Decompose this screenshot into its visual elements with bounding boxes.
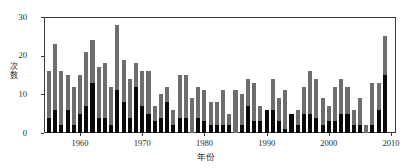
bar-segment-lower bbox=[146, 114, 150, 133]
y-axis: 0102030 bbox=[0, 0, 44, 168]
bar-segment-upper bbox=[233, 90, 237, 133]
bar bbox=[97, 67, 101, 133]
bar-segment-lower bbox=[134, 87, 138, 133]
bar-segment-upper bbox=[364, 125, 368, 133]
bar-segment-lower bbox=[252, 121, 256, 133]
y-tick-mark bbox=[41, 133, 44, 134]
bar-segment-lower bbox=[302, 114, 306, 133]
bar bbox=[196, 87, 200, 133]
bar bbox=[271, 79, 275, 133]
x-tick-mark bbox=[204, 133, 205, 136]
x-axis-title: 年份 bbox=[0, 150, 411, 162]
bars-layer bbox=[45, 18, 395, 133]
x-tick-mark bbox=[391, 133, 392, 136]
x-tick-label: 1960 bbox=[60, 138, 100, 148]
bar-segment-lower bbox=[171, 125, 175, 133]
bar-segment-upper bbox=[165, 87, 169, 102]
bar bbox=[352, 110, 356, 133]
x-tick-mark bbox=[142, 133, 143, 136]
bar-segment-upper bbox=[66, 75, 70, 110]
bar-segment-lower bbox=[246, 106, 250, 133]
bar-segment-lower bbox=[345, 114, 349, 133]
bar bbox=[72, 87, 76, 133]
bar-segment-lower bbox=[159, 118, 163, 133]
y-tick-mark bbox=[41, 56, 44, 57]
bar-segment-upper bbox=[84, 52, 88, 106]
bar-segment-lower bbox=[103, 118, 107, 133]
bar-segment-lower bbox=[289, 114, 293, 133]
bar bbox=[314, 79, 318, 133]
bar-segment-lower bbox=[153, 121, 157, 133]
bar-segment-upper bbox=[146, 71, 150, 114]
bar bbox=[202, 90, 206, 133]
bar-segment-upper bbox=[202, 90, 206, 121]
bar-segment-lower bbox=[321, 125, 325, 133]
x-tick-mark bbox=[329, 133, 330, 136]
bar-segment-upper bbox=[240, 94, 244, 125]
bar-segment-upper bbox=[339, 79, 343, 114]
bar-segment-lower bbox=[184, 118, 188, 133]
bar-segment-lower bbox=[258, 121, 262, 133]
bar-segment-lower bbox=[333, 121, 337, 133]
bar-segment-lower bbox=[178, 118, 182, 133]
bar-segment-lower bbox=[59, 125, 63, 133]
bar-segment-lower bbox=[140, 106, 144, 133]
bar-segment-lower bbox=[296, 125, 300, 133]
bar-segment-lower bbox=[265, 110, 269, 133]
bar-segment-lower bbox=[47, 118, 51, 133]
bar bbox=[122, 60, 126, 133]
bar-segment-lower bbox=[370, 125, 374, 133]
bar-segment-upper bbox=[159, 94, 163, 117]
bar-segment-upper bbox=[227, 114, 231, 126]
bar-segment-upper bbox=[103, 63, 107, 117]
bar bbox=[321, 98, 325, 133]
bar-segment-upper bbox=[171, 110, 175, 125]
bar-segment-upper bbox=[271, 79, 275, 110]
bar-segment-upper bbox=[215, 102, 219, 125]
bar-segment-lower bbox=[327, 121, 331, 133]
bar-segment-upper bbox=[296, 110, 300, 125]
bar-segment-lower bbox=[215, 125, 219, 133]
bar bbox=[296, 110, 300, 133]
bar bbox=[240, 94, 244, 133]
bar bbox=[134, 63, 138, 133]
bar-segment-upper bbox=[115, 25, 119, 91]
bar-segment-upper bbox=[190, 98, 194, 133]
bar bbox=[327, 106, 331, 133]
bar-segment-upper bbox=[221, 90, 225, 125]
bar-segment-upper bbox=[352, 110, 356, 125]
bar bbox=[302, 87, 306, 133]
bar-segment-lower bbox=[78, 114, 82, 133]
bar bbox=[171, 110, 175, 133]
bar-segment-upper bbox=[140, 71, 144, 106]
bar-segment-upper bbox=[383, 36, 387, 75]
bar-segment-lower bbox=[122, 102, 126, 133]
bar-segment-lower bbox=[377, 110, 381, 133]
bar bbox=[358, 98, 362, 133]
bar-segment-lower bbox=[165, 102, 169, 133]
bar bbox=[258, 106, 262, 133]
bar-segment-upper bbox=[47, 71, 51, 117]
bar-segment-upper bbox=[128, 79, 132, 118]
bar-segment-lower bbox=[339, 114, 343, 133]
bar bbox=[84, 52, 88, 133]
x-tick-label: 2010 bbox=[371, 138, 411, 148]
bar bbox=[289, 114, 293, 133]
bar bbox=[90, 40, 94, 133]
bar bbox=[383, 36, 387, 133]
bar-segment-upper bbox=[258, 106, 262, 121]
bar-segment-upper bbox=[321, 98, 325, 125]
x-tick-mark bbox=[267, 133, 268, 136]
bar bbox=[109, 87, 113, 133]
bar-segment-upper bbox=[72, 87, 76, 126]
bar-segment-upper bbox=[178, 75, 182, 118]
bar-segment-upper bbox=[184, 75, 188, 118]
bar-segment-lower bbox=[221, 125, 225, 133]
bar-segment-lower bbox=[109, 125, 113, 133]
bar-segment-lower bbox=[314, 118, 318, 133]
bar bbox=[277, 98, 281, 133]
bar-segment-upper bbox=[333, 87, 337, 122]
bar bbox=[165, 87, 169, 133]
bar bbox=[345, 87, 349, 133]
bar bbox=[333, 87, 337, 133]
